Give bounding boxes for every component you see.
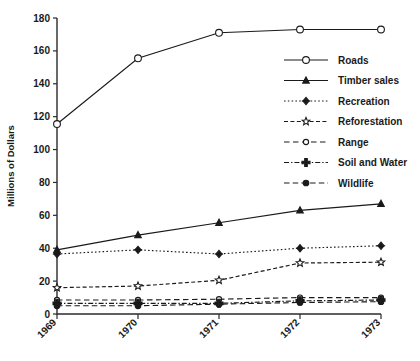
data-point-marker bbox=[297, 26, 304, 33]
x-tick-label: 1969 bbox=[35, 316, 59, 340]
series-group bbox=[53, 26, 385, 308]
y-tick-label: 180 bbox=[33, 13, 50, 24]
data-point-marker bbox=[303, 139, 308, 144]
y-tick-label: 140 bbox=[33, 78, 50, 89]
legend-item-soil-and-water[interactable]: Soil and Water bbox=[284, 157, 407, 168]
data-point-marker bbox=[302, 159, 310, 167]
data-point-marker bbox=[303, 57, 310, 64]
x-axis-ticks: 19691970197119721973 bbox=[35, 314, 383, 340]
legend-label: Roads bbox=[338, 55, 369, 66]
data-point-marker bbox=[378, 200, 385, 206]
series-line bbox=[57, 30, 381, 125]
x-tick-label: 1970 bbox=[116, 316, 140, 340]
legend-label: Reforestation bbox=[338, 116, 402, 127]
data-point-marker bbox=[54, 303, 60, 309]
series-timber-sales bbox=[54, 200, 385, 252]
data-point-marker bbox=[54, 121, 61, 128]
chart-canvas: 020406080100120140160180Millions of Doll… bbox=[0, 0, 420, 361]
y-axis-ticks: 020406080100120140160180 bbox=[33, 13, 57, 320]
data-point-marker bbox=[377, 258, 385, 265]
series-line bbox=[57, 204, 381, 250]
axis-lines bbox=[57, 18, 381, 314]
legend-label: Soil and Water bbox=[338, 157, 407, 168]
legend: RoadsTimber salesRecreationReforestation… bbox=[284, 55, 407, 189]
y-tick-label: 160 bbox=[33, 45, 50, 56]
y-tick-label: 120 bbox=[33, 111, 50, 122]
data-point-marker bbox=[135, 55, 142, 62]
data-point-marker bbox=[303, 180, 309, 186]
line-chart-figure: 020406080100120140160180Millions of Doll… bbox=[0, 0, 420, 361]
legend-item-roads[interactable]: Roads bbox=[284, 55, 369, 66]
data-point-marker bbox=[378, 299, 384, 305]
x-tick-label: 1972 bbox=[278, 316, 302, 340]
series-recreation bbox=[53, 242, 385, 257]
y-tick-label: 20 bbox=[39, 276, 51, 287]
y-tick-label: 100 bbox=[33, 144, 50, 155]
data-point-marker bbox=[134, 282, 142, 289]
data-point-marker bbox=[297, 300, 303, 306]
series-roads bbox=[54, 26, 385, 127]
data-point-marker bbox=[302, 118, 310, 125]
legend-label: Wildlife bbox=[338, 178, 374, 189]
data-point-marker bbox=[216, 301, 222, 307]
legend-label: Recreation bbox=[338, 96, 390, 107]
data-point-marker bbox=[53, 284, 61, 291]
y-tick-label: 60 bbox=[39, 210, 51, 221]
data-point-marker bbox=[135, 303, 141, 309]
legend-item-recreation[interactable]: Recreation bbox=[284, 96, 390, 107]
x-tick-label: 1973 bbox=[359, 316, 383, 340]
data-point-marker bbox=[215, 276, 223, 283]
axes bbox=[57, 18, 381, 314]
legend-item-reforestation[interactable]: Reforestation bbox=[284, 116, 402, 127]
legend-label: Timber sales bbox=[338, 75, 399, 86]
y-tick-label: 40 bbox=[39, 243, 51, 254]
legend-item-range[interactable]: Range bbox=[284, 137, 369, 148]
y-tick-label: 80 bbox=[39, 177, 51, 188]
x-tick-label: 1971 bbox=[197, 316, 221, 340]
data-point-marker bbox=[296, 259, 304, 266]
series-reforestation bbox=[53, 258, 385, 291]
y-axis-label: Millions of Dollars bbox=[5, 125, 16, 207]
data-point-marker bbox=[378, 26, 385, 33]
legend-item-wildlife[interactable]: Wildlife bbox=[284, 178, 374, 189]
data-point-marker bbox=[216, 29, 223, 36]
legend-label: Range bbox=[338, 137, 369, 148]
legend-item-timber-sales[interactable]: Timber sales bbox=[284, 75, 399, 86]
